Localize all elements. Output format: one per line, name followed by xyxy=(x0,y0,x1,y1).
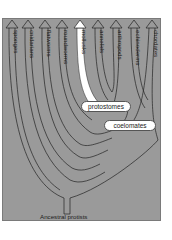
taxon-label-annelids: annelids xyxy=(99,30,106,53)
taxon-label-sponges: sponges xyxy=(13,30,20,53)
root-trunk xyxy=(64,198,70,214)
arrow-echinoderms-icon xyxy=(128,20,140,28)
arrowheads xyxy=(6,20,158,28)
arrow-roundworms-icon xyxy=(56,20,68,28)
root-label: Ancestral protists xyxy=(40,213,87,220)
clade-label-protostomes: protostomes xyxy=(81,101,131,112)
taxon-label-chordates: chordates xyxy=(153,30,160,57)
taxon-label-cnidarians: cnidarians xyxy=(29,30,36,58)
arrow-annelids-icon xyxy=(92,20,104,28)
clade-label-coelomates: coelomates xyxy=(104,120,156,131)
arrow-arthropods-icon xyxy=(110,20,122,28)
taxon-label-flatworms: flatworms xyxy=(46,30,53,56)
arrow-cnidarians-icon xyxy=(22,20,34,28)
arrow-mollusks-icon xyxy=(74,20,86,28)
taxon-label-mollusks: mollusks xyxy=(81,30,88,54)
taxon-label-echinoderms: echinoderms xyxy=(135,30,142,65)
taxon-label-roundworms: roundworms xyxy=(63,30,70,64)
taxon-label-arthropods: arthropods xyxy=(117,30,124,60)
arrow-flatworms-icon xyxy=(39,20,51,28)
arrow-sponges-icon xyxy=(6,20,18,28)
arrow-chordates-icon xyxy=(146,20,158,28)
